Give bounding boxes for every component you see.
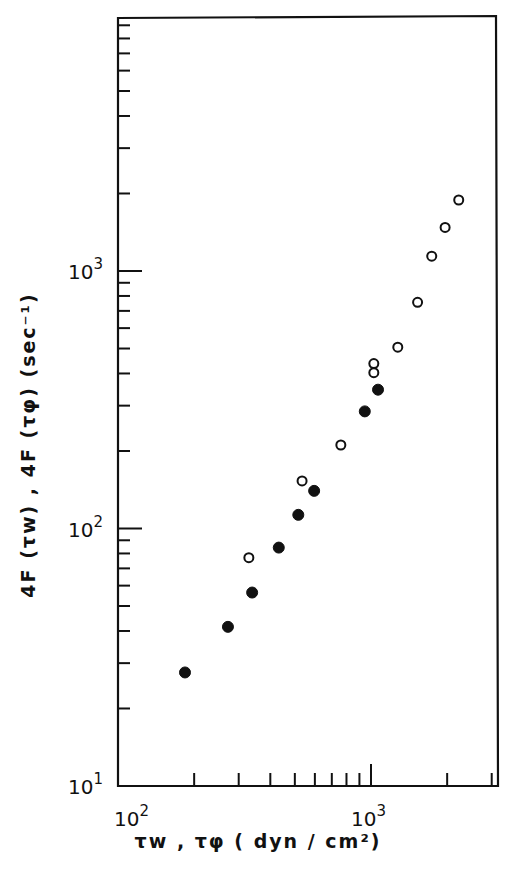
filled-data-point — [293, 509, 304, 520]
open-data-point — [393, 343, 402, 352]
filled-data-point — [222, 621, 233, 632]
filled-data-point — [309, 485, 320, 496]
filled-data-point — [273, 542, 284, 553]
y-axis-label-container: 4F (τw) , 4F (τφ) (sec⁻¹) — [8, 0, 48, 881]
open-data-point — [298, 476, 307, 485]
y-tick-label-1000: 103 — [68, 255, 103, 284]
x-tick-label-1000: 103 — [351, 802, 386, 831]
filled-data-point — [373, 384, 384, 395]
axis-ticks — [118, 25, 492, 786]
y-axis-label: 4F (τw) , 4F (τφ) (sec⁻¹) — [17, 292, 39, 597]
open-data-point — [369, 359, 378, 368]
tick-labels: 102103101102103 — [68, 255, 386, 831]
open-data-point — [369, 368, 378, 377]
open-data-point — [441, 223, 450, 232]
filled-data-point — [247, 587, 258, 598]
data-points — [179, 195, 463, 677]
open-data-point — [454, 195, 463, 204]
filled-data-point — [359, 406, 370, 417]
y-tick-label-10: 101 — [68, 770, 103, 799]
open-data-point — [244, 553, 253, 562]
open-data-point — [413, 298, 422, 307]
x-axis-label: τw , τφ ( dyn / cm²) — [0, 830, 516, 852]
x-tick-label-100: 102 — [114, 802, 149, 831]
y-tick-label-100: 102 — [68, 513, 103, 542]
plot-frame — [118, 16, 498, 786]
plot-border — [118, 16, 498, 786]
scatter-chart: 102103101102103 — [0, 0, 516, 881]
filled-data-point — [179, 667, 190, 678]
open-data-point — [427, 252, 436, 261]
open-data-point — [336, 440, 345, 449]
